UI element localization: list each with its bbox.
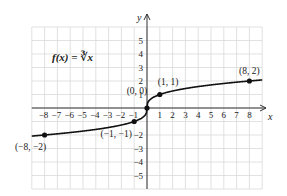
data-point — [144, 105, 149, 110]
x-axis-label: x — [267, 111, 273, 122]
data-point — [132, 119, 137, 124]
point-label: (−1, −1) — [101, 129, 132, 140]
data-point — [42, 132, 47, 137]
x-tick-label: 4 — [196, 110, 201, 120]
point-label: (8, 2) — [239, 66, 260, 77]
cube-root-chart: −8−7−6−5−4−3−2−112345678−5−4−3−212345 (−… — [0, 0, 287, 196]
x-tick-label: −1 — [128, 110, 138, 120]
x-tick-label: −5 — [77, 110, 87, 120]
y-tick-label: 3 — [139, 63, 144, 73]
point-label: (0, 0) — [127, 86, 148, 97]
x-tick-label: 2 — [170, 110, 175, 120]
x-tick-label: 6 — [222, 110, 227, 120]
x-tick-label: 3 — [183, 110, 188, 120]
x-tick-label: −2 — [116, 110, 126, 120]
chart-title: f(x) = ∛x — [52, 50, 93, 64]
y-tick-label: 2 — [139, 76, 144, 86]
x-tick-label: −3 — [103, 110, 113, 120]
x-tick-label: 8 — [247, 110, 252, 120]
y-tick-label: −3 — [133, 144, 143, 154]
x-tick-label: −7 — [52, 110, 62, 120]
x-tick-label: −4 — [90, 110, 100, 120]
y-tick-label: −5 — [133, 171, 143, 181]
data-point — [157, 92, 162, 97]
x-tick-label: 7 — [234, 110, 239, 120]
y-tick-label: 5 — [139, 36, 144, 46]
y-tick-label: −4 — [133, 157, 143, 167]
x-tick-label: 5 — [209, 110, 214, 120]
data-point — [247, 78, 252, 83]
point-label: (−8, −2) — [15, 142, 46, 153]
y-axis-label: y — [136, 12, 142, 23]
x-tick-label: −6 — [64, 110, 74, 120]
x-tick-label: 1 — [158, 110, 163, 120]
x-tick-label: −8 — [39, 110, 49, 120]
y-tick-label: −2 — [133, 130, 143, 140]
y-tick-label: 4 — [139, 49, 144, 59]
point-label: (1, 1) — [158, 77, 179, 88]
